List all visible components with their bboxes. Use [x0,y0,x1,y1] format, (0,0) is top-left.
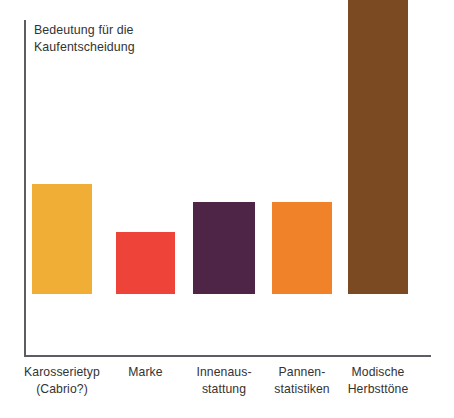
bar-2 [193,202,255,294]
y-axis-line [24,20,26,356]
bar-4 [348,0,408,294]
x-axis-line [24,355,431,357]
bar-3 [272,202,332,294]
bar-chart-figure: Bedeutung für die Kaufentscheidung Karos… [0,0,454,418]
bar-0 [32,184,92,294]
category-axis-labels: Karosserietyp (Cabrio?)MarkeInnenaus- st… [0,364,454,414]
y-axis-title: Bedeutung für die Kaufentscheidung [34,22,234,55]
bar-1 [116,232,175,294]
category-label-4: Modische Herbsttöne [326,364,430,398]
